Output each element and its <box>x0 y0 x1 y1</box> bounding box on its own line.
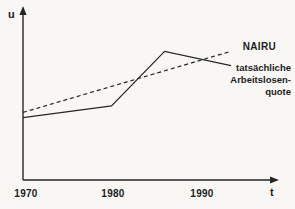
y-axis-arrow-icon <box>19 6 26 15</box>
actual-label-line-1: tatsächliche <box>230 62 291 74</box>
x-axis-arrow-icon <box>270 176 279 183</box>
actual-label-line-3: quote <box>230 86 291 98</box>
y-axis-label: u <box>8 8 15 20</box>
nairu-chart-figure: u t 1970 1980 1990 NAIRU tatsächliche Ar… <box>0 0 295 209</box>
nairu-line-label: NAIRU <box>243 41 276 52</box>
x-axis-label: t <box>270 186 274 198</box>
x-tick-1990: 1990 <box>190 188 213 199</box>
x-tick-1970: 1970 <box>14 188 37 199</box>
actual-unemployment-line <box>23 51 231 117</box>
plot-canvas <box>0 0 295 209</box>
actual-unemployment-label: tatsächliche Arbeitslosen- quote <box>230 62 291 98</box>
x-tick-1980: 1980 <box>101 188 124 199</box>
actual-label-line-2: Arbeitslosen- <box>230 74 291 86</box>
nairu-line <box>23 51 231 112</box>
